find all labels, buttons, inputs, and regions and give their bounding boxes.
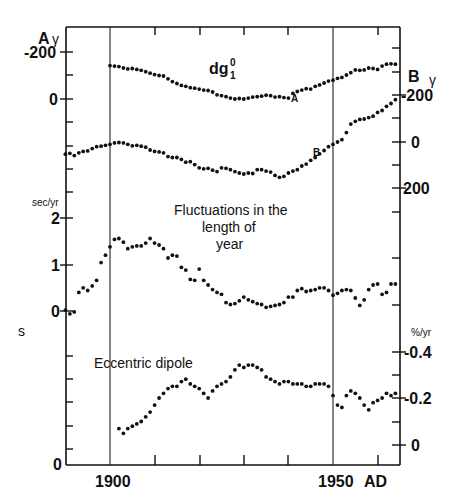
data-point [358, 118, 362, 122]
data-point [251, 95, 255, 99]
data-point [282, 380, 286, 384]
data-point [242, 366, 246, 370]
data-point [287, 295, 291, 299]
data-point [340, 76, 344, 80]
data-point [193, 384, 197, 388]
s-label: s [18, 323, 25, 339]
data-point [122, 431, 126, 435]
data-point [237, 171, 241, 175]
data-point [180, 380, 184, 384]
data-point [367, 116, 371, 120]
data-point [322, 149, 326, 153]
data-point [313, 84, 317, 88]
data-point [394, 62, 398, 66]
data-point [113, 238, 117, 242]
chart-title-dg: dg [209, 60, 229, 77]
data-point [157, 150, 161, 154]
data-point [264, 169, 268, 173]
data-point [206, 89, 210, 93]
data-point [130, 67, 134, 71]
data-point [184, 84, 188, 88]
data-point [202, 167, 206, 171]
data-point [162, 391, 166, 395]
data-point [255, 168, 259, 172]
data-point [336, 76, 340, 80]
chart-title-superscript: 0 [230, 57, 236, 68]
data-point [282, 301, 286, 305]
data-point [184, 268, 188, 272]
data-point [242, 295, 246, 299]
data-point [162, 74, 166, 78]
data-point [327, 79, 331, 83]
data-point [211, 168, 215, 172]
data-point [175, 384, 179, 388]
eccentric-dipole-title: Eccentric dipole [94, 355, 193, 371]
data-point [175, 156, 179, 160]
data-point [260, 368, 264, 372]
data-point [126, 247, 130, 251]
data-point [255, 95, 259, 99]
data-point [166, 155, 170, 159]
data-point [108, 64, 112, 68]
data-point [367, 288, 371, 292]
data-point [273, 304, 277, 308]
x-tick-1950: 1950 [318, 473, 354, 490]
data-point [246, 363, 250, 367]
data-point [215, 170, 219, 174]
data-point [300, 88, 304, 92]
data-point [157, 74, 161, 78]
data-point [184, 160, 188, 164]
curve-label-a: A [291, 93, 298, 104]
data-point [349, 389, 353, 393]
right-tick-minus200: -200 [401, 87, 433, 104]
data-point [345, 131, 349, 135]
data-point [130, 424, 134, 428]
data-point [394, 282, 398, 286]
data-point [162, 247, 166, 251]
data-point [220, 94, 224, 98]
data-point [264, 305, 268, 309]
data-point [327, 145, 331, 149]
data-point [278, 175, 282, 179]
data-point [77, 291, 81, 295]
data-point [90, 147, 94, 151]
data-point [389, 62, 393, 66]
data-point [153, 150, 157, 154]
data-point [380, 292, 384, 296]
data-point [139, 420, 143, 424]
data-point [309, 384, 313, 388]
data-point [206, 166, 210, 170]
data-point [86, 149, 90, 153]
data-point [135, 68, 139, 72]
data-point [95, 278, 99, 282]
data-point [353, 296, 357, 300]
data-point [291, 169, 295, 173]
data-point [349, 122, 353, 126]
data-point [331, 293, 335, 297]
data-point [233, 302, 237, 306]
data-point [122, 141, 126, 145]
data-point [202, 88, 206, 92]
data-point [171, 156, 175, 160]
data-point [385, 62, 389, 66]
data-point [327, 289, 331, 293]
data-point [380, 396, 384, 400]
data-point [229, 375, 233, 379]
data-point [237, 97, 241, 101]
data-point [224, 380, 228, 384]
data-point [349, 289, 353, 293]
data-point [367, 66, 371, 70]
lod-title-line2: length of [202, 219, 256, 235]
data-point [202, 391, 206, 395]
data-point [273, 174, 277, 178]
series-b-dots [64, 98, 398, 179]
data-point [309, 87, 313, 91]
data-point [336, 291, 340, 295]
data-point [233, 170, 237, 174]
data-point [287, 96, 291, 100]
lod-tick-2: 2 [51, 210, 60, 227]
data-point [237, 299, 241, 303]
data-point [220, 166, 224, 170]
data-point [99, 261, 103, 265]
data-point [269, 94, 273, 98]
